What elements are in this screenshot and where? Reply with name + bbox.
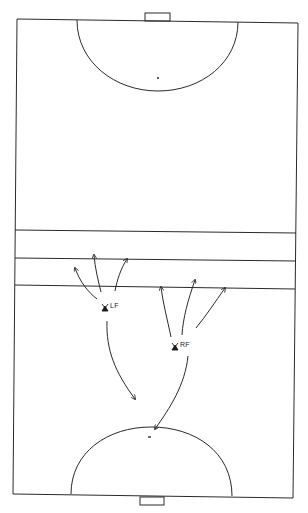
- rf-player-marker: [172, 343, 178, 350]
- rf-player-label: RF: [180, 341, 190, 348]
- center-line: [15, 258, 296, 261]
- lf-run-arrow-1: [75, 268, 97, 299]
- rf-run-arrow-2: [182, 280, 195, 335]
- top-shooting-circle: [77, 20, 238, 91]
- lf-player-marker: [102, 304, 108, 311]
- hockey-pitch-diagram: [0, 0, 308, 513]
- lf-player-label: LF: [110, 302, 119, 309]
- halfway-line-upper: [15, 230, 296, 233]
- rf-run-arrow-1: [161, 287, 171, 337]
- rf-run-arrow-3: [196, 288, 225, 328]
- bottom-goal: [140, 497, 164, 505]
- quarter-line: [15, 285, 295, 289]
- bottom-shooting-circle: [71, 427, 232, 496]
- top-goal: [145, 13, 170, 21]
- rf-run-arrow-4: [155, 356, 188, 429]
- lf-run-arrow-4: [107, 321, 135, 399]
